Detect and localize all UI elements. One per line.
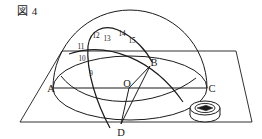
- figure-container: 図 4: [0, 0, 262, 139]
- segment-D-B: [121, 66, 150, 124]
- segment-O-B: [129, 66, 150, 88]
- segment-D-O: [121, 88, 129, 124]
- point-label-O: O: [123, 78, 131, 89]
- dome-outline: [53, 10, 207, 88]
- arc-mark-label-13: 13: [103, 35, 111, 43]
- graduated-arc-group: [88, 28, 152, 128]
- arc-mark-label-10: 10: [78, 55, 86, 63]
- celestial-dome-group: [53, 10, 207, 88]
- point-label-C: C: [208, 83, 215, 94]
- graduated-arc: [88, 28, 152, 128]
- arc-mark-label-12: 12: [92, 32, 100, 40]
- point-label-B: B: [150, 57, 157, 68]
- arc-mark-label-14: 14: [118, 30, 126, 38]
- point-label-D: D: [117, 127, 125, 138]
- arc-mark-label-9: 9: [89, 70, 93, 78]
- radii-group: [53, 66, 207, 124]
- arc-mark-label-15: 15: [128, 37, 136, 45]
- geometry-drawing: A B C D O 9 10 11 12 13 14 15: [0, 0, 262, 139]
- arc-mark-label-11: 11: [78, 43, 85, 51]
- compass-group: [190, 101, 220, 122]
- point-label-A: A: [47, 83, 55, 94]
